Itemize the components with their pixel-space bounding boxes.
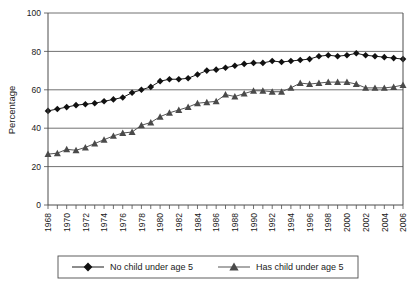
data-point-marker: [54, 106, 61, 113]
data-point-marker: [334, 53, 341, 60]
data-point-marker: [241, 61, 248, 68]
y-tick-label-100: 100: [27, 8, 41, 18]
y-tick-label-80: 80: [32, 47, 42, 57]
data-point-marker: [288, 58, 295, 65]
data-point-marker: [297, 80, 304, 86]
data-point-marker: [250, 60, 257, 67]
data-point-marker: [91, 140, 98, 146]
x-tick-label-1980: 1980: [155, 213, 165, 232]
data-point-marker: [166, 76, 173, 83]
x-tick-label-2004: 2004: [380, 213, 390, 232]
data-point-marker: [287, 84, 294, 90]
data-point-marker: [278, 59, 285, 66]
data-point-marker: [222, 64, 229, 71]
data-point-marker: [344, 52, 351, 59]
line-chart: 020406080100 196819701972197419761978198…: [0, 0, 416, 295]
x-tick-label-1970: 1970: [62, 213, 72, 232]
data-point-marker: [147, 119, 154, 125]
triangle-marker: [229, 262, 238, 270]
data-point-marker: [232, 63, 239, 70]
data-point-marker: [157, 113, 164, 119]
data-point-marker: [138, 87, 145, 94]
data-point-marker: [129, 89, 136, 96]
data-point-marker: [194, 71, 201, 78]
data-point-marker: [269, 58, 276, 65]
x-tick-label-1984: 1984: [193, 213, 203, 232]
data-point-marker: [213, 98, 220, 104]
data-point-marker: [82, 101, 89, 108]
x-tick-label-2002: 2002: [361, 213, 371, 232]
diamond-marker: [84, 263, 93, 272]
data-point-marker: [54, 150, 61, 156]
y-tick-label-20: 20: [32, 162, 42, 172]
data-point-marker: [185, 104, 192, 110]
x-tick-label-1982: 1982: [174, 213, 184, 232]
gridlines: [48, 13, 403, 167]
data-point-marker: [101, 98, 108, 105]
x-axis-ticks: 1968197019721974197619781980198219841986…: [43, 205, 408, 232]
y-axis-title: Percentage: [6, 86, 17, 135]
data-point-marker: [110, 96, 117, 103]
data-point-marker: [297, 57, 304, 64]
x-tick-label-1976: 1976: [118, 213, 128, 232]
x-tick-label-2006: 2006: [398, 213, 408, 232]
data-point-marker: [204, 67, 211, 74]
data-point-marker: [362, 52, 369, 59]
data-point-marker: [82, 144, 89, 150]
chart-legend: No child under age 5 Has child under age…: [58, 256, 358, 278]
x-tick-label-1968: 1968: [43, 213, 53, 232]
x-tick-label-1986: 1986: [211, 213, 221, 232]
data-point-marker: [91, 100, 98, 107]
x-tick-label-1992: 1992: [267, 213, 277, 232]
series-line-1: [48, 53, 403, 111]
data-point-marker: [213, 66, 220, 73]
x-tick-label-1996: 1996: [305, 213, 315, 232]
data-point-marker: [129, 129, 136, 135]
x-tick-label-1988: 1988: [230, 213, 240, 232]
x-tick-label-1978: 1978: [137, 213, 147, 232]
data-series: [45, 50, 407, 157]
y-tick-label-60: 60: [32, 85, 42, 95]
data-point-marker: [147, 84, 154, 91]
data-point-marker: [372, 53, 379, 60]
data-point-marker: [63, 104, 70, 111]
x-tick-label-1994: 1994: [286, 213, 296, 232]
data-point-marker: [157, 78, 164, 85]
x-tick-label-1972: 1972: [81, 213, 91, 232]
legend-entry-no-child[interactable]: No child under age 5: [72, 262, 193, 272]
legend-entry-has-child[interactable]: Has child under age 5: [218, 262, 344, 272]
data-point-marker: [175, 76, 182, 83]
data-point-marker: [325, 52, 332, 59]
y-tick-label-0: 0: [36, 200, 41, 210]
data-point-marker: [73, 102, 80, 109]
data-point-marker: [316, 53, 323, 60]
x-tick-label-1998: 1998: [323, 213, 333, 232]
data-point-marker: [222, 91, 229, 97]
legend-label-no-child: No child under age 5: [110, 262, 193, 272]
y-axis-ticks: 020406080100: [27, 8, 48, 210]
data-point-marker: [119, 94, 126, 101]
legend-label-has-child: Has child under age 5: [256, 262, 344, 272]
data-point-marker: [390, 55, 397, 62]
data-point-marker: [101, 136, 108, 142]
x-tick-label-2000: 2000: [342, 213, 352, 232]
data-point-marker: [260, 60, 267, 67]
data-point-marker: [185, 75, 192, 82]
data-point-marker: [63, 146, 70, 152]
chart-container: 020406080100 196819701972197419761978198…: [0, 0, 416, 295]
data-point-marker: [381, 54, 388, 61]
data-point-marker: [306, 56, 313, 63]
x-tick-label-1974: 1974: [99, 213, 109, 232]
y-tick-label-40: 40: [32, 123, 42, 133]
x-tick-label-1990: 1990: [249, 213, 259, 232]
axis-lines: [48, 13, 403, 205]
